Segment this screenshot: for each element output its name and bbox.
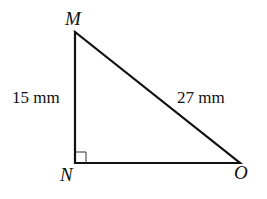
- vertex-label-n: N: [60, 164, 73, 186]
- side-label-mo: 27 mm: [177, 88, 225, 108]
- side-label-mn: 15 mm: [12, 88, 60, 108]
- vertex-label-o: O: [234, 162, 248, 184]
- vertex-label-m: M: [65, 8, 81, 30]
- right-angle-marker: [75, 152, 86, 163]
